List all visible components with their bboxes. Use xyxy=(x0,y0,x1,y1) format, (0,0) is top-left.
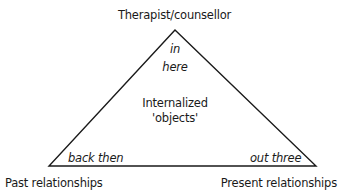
corner-label-here: here xyxy=(155,58,195,76)
center-label-line-2: 'objects' xyxy=(125,111,225,126)
center-label-internalized-objects: Internalized 'objects' xyxy=(125,96,225,126)
corner-label-back-then: back then xyxy=(68,151,123,165)
corner-label-out-three: out three xyxy=(250,151,301,165)
corner-label-in: in xyxy=(155,40,195,58)
corner-label-in-here: in here xyxy=(155,40,195,76)
triangle-of-insight-diagram: Therapist/counsellor in here Internalize… xyxy=(0,0,349,196)
center-label-line-1: Internalized xyxy=(125,96,225,111)
vertex-label-therapist: Therapist/counsellor xyxy=(0,8,349,22)
vertex-label-present-relationships: Present relationships xyxy=(221,176,337,190)
vertex-label-past-relationships: Past relationships xyxy=(5,176,103,190)
